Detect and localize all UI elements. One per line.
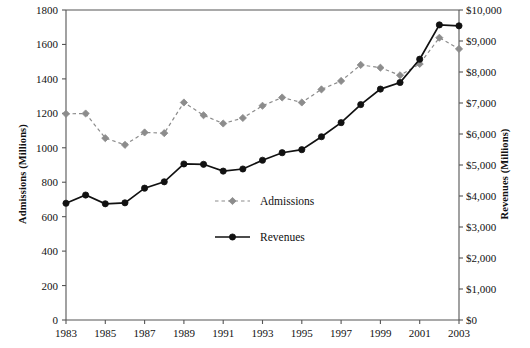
series-line-admissions — [66, 38, 459, 145]
data-point-admissions — [298, 99, 305, 106]
data-point-revenues — [200, 161, 206, 167]
data-point-admissions — [455, 45, 462, 52]
data-point-revenues — [122, 200, 128, 206]
data-point-revenues — [397, 79, 403, 85]
data-point-revenues — [220, 168, 226, 174]
data-point-admissions — [200, 112, 207, 119]
plot-area — [0, 0, 530, 348]
legend-label-admissions: Admissions — [260, 195, 314, 207]
data-point-revenues — [83, 192, 89, 198]
data-point-admissions — [180, 99, 187, 106]
data-point-revenues — [181, 161, 187, 167]
data-point-revenues — [161, 179, 167, 185]
legend-label-revenues: Revenues — [260, 231, 305, 243]
data-point-admissions — [396, 72, 403, 79]
data-point-admissions — [141, 129, 148, 136]
data-point-revenues — [358, 101, 364, 107]
data-point-admissions — [338, 77, 345, 84]
data-point-revenues — [456, 23, 462, 29]
data-point-admissions — [259, 102, 266, 109]
legend-marker-revenues — [229, 234, 235, 240]
data-point-revenues — [299, 147, 305, 153]
data-point-revenues — [259, 157, 265, 163]
data-point-admissions — [220, 120, 227, 127]
data-point-admissions — [161, 130, 168, 137]
data-point-revenues — [417, 56, 423, 62]
data-point-revenues — [240, 166, 246, 172]
data-point-admissions — [62, 110, 69, 117]
data-point-admissions — [318, 86, 325, 93]
data-point-revenues — [318, 134, 324, 140]
data-point-admissions — [279, 94, 286, 101]
data-point-revenues — [338, 120, 344, 126]
series-line-revenues — [66, 25, 459, 204]
chart-container: Admissions (Millions) Revenues (Millions… — [0, 0, 530, 348]
data-point-revenues — [102, 201, 108, 207]
data-point-revenues — [142, 185, 148, 191]
data-point-admissions — [82, 110, 89, 117]
data-point-revenues — [377, 86, 383, 92]
data-point-admissions — [121, 141, 128, 148]
data-point-revenues — [63, 200, 69, 206]
data-point-admissions — [239, 114, 246, 121]
data-point-revenues — [436, 22, 442, 28]
data-point-admissions — [377, 64, 384, 71]
data-point-revenues — [279, 150, 285, 156]
legend-marker-admissions — [229, 197, 236, 204]
